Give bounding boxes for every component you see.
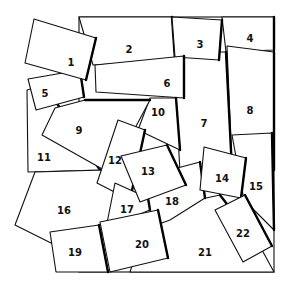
piece-label: 2 (126, 44, 133, 55)
piece-label: 22 (236, 228, 250, 239)
piece-label: 11 (37, 152, 51, 163)
piece-label: 13 (141, 166, 155, 177)
piece-label: 4 (247, 33, 254, 44)
piece-label: 6 (164, 78, 171, 89)
piece-label: 14 (215, 173, 229, 184)
piece-label: 17 (120, 204, 134, 215)
piece-label: 19 (68, 247, 82, 258)
piece-19: 19 (50, 225, 108, 272)
piece-label: 21 (198, 247, 212, 258)
pieces-group: 48715211823610119511612171314221920 (15, 17, 274, 272)
piece-label: 16 (57, 205, 71, 216)
piece-label: 10 (151, 107, 165, 118)
piece-label: 12 (108, 155, 122, 166)
piece-label: 18 (165, 196, 179, 207)
piece-label: 7 (201, 118, 208, 129)
diagram-canvas: 48715211823610119511612171314221920 (0, 0, 289, 291)
piece-label: 20 (135, 239, 149, 250)
piece-label: 3 (197, 39, 204, 50)
piece-label: 9 (76, 125, 83, 136)
piece-label: 15 (249, 181, 263, 192)
squares-diagram: 48715211823610119511612171314221920 (0, 0, 289, 291)
piece-label: 5 (42, 88, 49, 99)
piece-3: 3 (172, 17, 222, 60)
piece-label: 1 (68, 57, 75, 68)
piece-label: 8 (247, 105, 254, 116)
